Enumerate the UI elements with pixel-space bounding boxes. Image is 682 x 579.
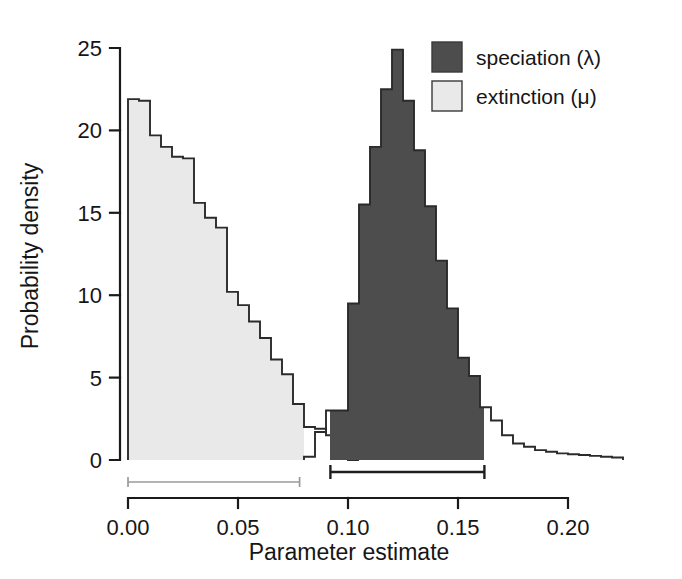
legend-entry-extinction[interactable]: extinction (μ): [432, 81, 597, 111]
speciation-credible-interval: [330, 465, 484, 479]
figure-container: 0.000.050.100.150.200510152025 speciatio…: [0, 0, 682, 579]
y-axis-title: Probability density: [17, 162, 43, 349]
bar-extinction: [227, 292, 238, 460]
bar-speciation: [370, 147, 381, 460]
bar-extinction: [249, 322, 260, 460]
bar-speciation: [403, 101, 414, 460]
bar-extinction: [293, 404, 304, 460]
bar-speciation: [436, 261, 447, 460]
y-tick-label: 15: [78, 201, 102, 226]
bar-extinction: [271, 359, 282, 460]
legend-layer: speciation (λ)extinction (μ): [432, 42, 601, 111]
bar-speciation: [337, 411, 348, 460]
x-tick-label: 0.00: [107, 515, 150, 540]
bar-speciation: [469, 376, 480, 460]
y-tick-label: 20: [78, 118, 102, 143]
bar-speciation: [480, 407, 484, 460]
bar-speciation: [447, 308, 458, 460]
y-tick-label: 10: [78, 283, 102, 308]
bar-extinction: [128, 99, 139, 460]
legend-label-extinction: extinction (μ): [476, 85, 597, 108]
bar-speciation: [348, 303, 359, 460]
x-tick-label: 0.15: [437, 515, 480, 540]
histogram-chart: 0.000.050.100.150.200510152025 speciatio…: [0, 0, 682, 579]
bar-extinction: [194, 203, 205, 460]
bar-speciation: [381, 89, 392, 460]
extinction-credible-interval: [128, 477, 300, 487]
y-tick-label: 25: [78, 36, 102, 61]
bar-extinction: [260, 338, 271, 460]
credible-interval-layer: [128, 465, 484, 487]
bar-extinction: [172, 157, 183, 460]
bar-extinction: [139, 101, 150, 460]
x-tick-label: 0.10: [327, 515, 370, 540]
bar-extinction: [216, 228, 227, 460]
extinction-bars: [128, 99, 304, 460]
plot-layer: [128, 50, 623, 460]
bar-extinction: [205, 218, 216, 460]
bar-speciation: [414, 150, 425, 460]
bar-speciation: [359, 205, 370, 460]
y-axis-spine: [110, 48, 120, 460]
legend-label-speciation: speciation (λ): [476, 46, 601, 69]
bar-extinction: [238, 305, 249, 460]
legend-entry-speciation[interactable]: speciation (λ): [432, 42, 601, 72]
bar-extinction: [282, 374, 293, 460]
x-tick-label: 0.20: [547, 515, 590, 540]
bar-extinction: [161, 147, 172, 460]
bar-speciation: [458, 358, 469, 460]
bar-extinction: [150, 135, 161, 460]
y-tick-label: 5: [90, 366, 102, 391]
legend-swatch-extinction: [432, 81, 462, 111]
bar-extinction: [183, 158, 194, 460]
bar-speciation: [392, 50, 403, 460]
bar-speciation: [425, 206, 436, 460]
y-tick-label: 0: [90, 448, 102, 473]
bar-speciation: [330, 411, 337, 460]
x-axis-title: Parameter estimate: [249, 539, 450, 565]
x-tick-label: 0.05: [217, 515, 260, 540]
legend-swatch-speciation: [432, 42, 462, 72]
